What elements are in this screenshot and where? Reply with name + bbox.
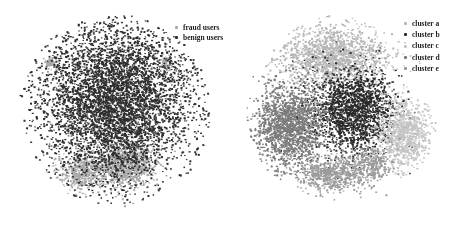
legend-marker-icon: [404, 56, 407, 59]
legend-label: cluster c: [412, 40, 439, 51]
legend-item-cluster-e: cluster e: [404, 63, 440, 74]
right-scatter-panel: cluster a cluster b cluster c cluster d …: [228, 0, 455, 229]
legend-item-cluster-a: cluster a: [404, 18, 440, 29]
legend-marker-icon: [175, 26, 178, 29]
legend-label: cluster d: [412, 52, 440, 63]
legend-marker-icon: [404, 45, 407, 48]
legend-label: fraud users: [183, 23, 219, 33]
legend-marker-icon: [404, 22, 407, 25]
legend-item-fraud-users: fraud users: [175, 23, 223, 33]
legend-marker-icon: [404, 33, 407, 36]
left-scatter-panel: fraud users benign users: [0, 0, 228, 229]
legend-right: cluster a cluster b cluster c cluster d …: [404, 18, 440, 74]
legend-item-cluster-b: cluster b: [404, 29, 440, 40]
legend-label: benign users: [183, 33, 223, 43]
legend-label: cluster b: [412, 29, 440, 40]
legend-marker-icon: [404, 67, 407, 70]
legend-left: fraud users benign users: [175, 23, 223, 42]
legend-marker-icon: [175, 36, 178, 39]
legend-item-benign-users: benign users: [175, 33, 223, 43]
legend-label: cluster a: [412, 18, 439, 29]
legend-item-cluster-c: cluster c: [404, 40, 440, 51]
legend-label: cluster e: [412, 63, 439, 74]
legend-item-cluster-d: cluster d: [404, 52, 440, 63]
